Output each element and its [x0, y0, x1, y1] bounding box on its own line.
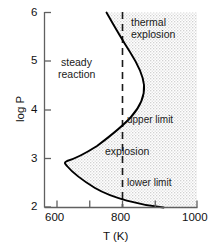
x-tick-label-1000: 1000 — [182, 211, 208, 224]
explosion-limits-chart: 6 5 4 3 2 600 800 1000 log P T (K) therm… — [0, 0, 213, 252]
annotation-thermal-explosion-line1: thermal — [131, 17, 166, 29]
annotation-upper-limit: upper limit — [127, 114, 173, 125]
y-tick-label-4: 4 — [31, 103, 37, 116]
annotation-steady-reaction-line2: reaction — [58, 69, 95, 81]
annotation-thermal-explosion-line2: explosion — [131, 29, 175, 41]
y-tick-label-2: 2 — [31, 200, 37, 213]
x-axis-title: T (K) — [103, 230, 128, 243]
x-tick-label-800: 800 — [111, 211, 130, 224]
x-tick-label-600: 600 — [45, 211, 64, 224]
y-tick-label-5: 5 — [31, 54, 37, 67]
y-axis-ticks — [45, 13, 52, 208]
y-tick-label-3: 3 — [31, 152, 37, 165]
annotation-lower-limit: lower limit — [127, 177, 171, 188]
y-axis-title: log P — [14, 96, 27, 122]
y-tick-label-6: 6 — [31, 6, 37, 19]
annotation-explosion: explosion — [105, 146, 149, 158]
annotation-steady-reaction-line1: steady — [61, 57, 92, 69]
